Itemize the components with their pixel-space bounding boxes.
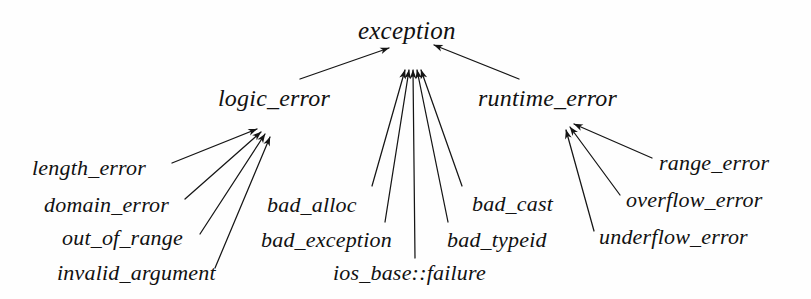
node-bad-typeid: bad_typeid [447, 229, 547, 251]
node-out-of-range: out_of_range [62, 227, 183, 249]
edge-bad-typeid-to-exception [417, 70, 448, 222]
edge-out-of-range-to-logic-error [200, 134, 265, 234]
node-exception: exception [358, 18, 456, 43]
node-ios-base-failure: ios_base::failure [333, 262, 486, 284]
edge-logic-error-to-exception [300, 48, 389, 79]
node-range-error: range_error [659, 152, 769, 174]
node-domain-error: domain_error [44, 194, 169, 216]
edge-underflow-error-to-runtime-error [566, 130, 594, 231]
edge-runtime-error-to-exception [434, 45, 519, 79]
node-length-error: length_error [32, 157, 146, 179]
edge-overflow-error-to-runtime-error [570, 127, 620, 195]
edge-ios-base-failure-to-exception [413, 70, 415, 258]
node-bad-alloc: bad_alloc [267, 194, 357, 216]
node-runtime-error: runtime_error [478, 86, 617, 110]
node-overflow-error: overflow_error [626, 189, 762, 211]
exception-hierarchy-figure: exception logic_error runtime_error leng… [0, 0, 811, 299]
edge-bad-exception-to-exception [385, 70, 409, 222]
node-invalid-argument: invalid_argument [57, 262, 216, 284]
edge-bad-cast-to-exception [421, 70, 462, 186]
edge-range-error-to-runtime-error [574, 124, 652, 158]
node-bad-exception: bad_exception [261, 229, 392, 251]
node-bad-cast: bad_cast [472, 193, 553, 215]
node-logic-error: logic_error [218, 86, 330, 110]
node-underflow-error: underflow_error [599, 226, 748, 248]
